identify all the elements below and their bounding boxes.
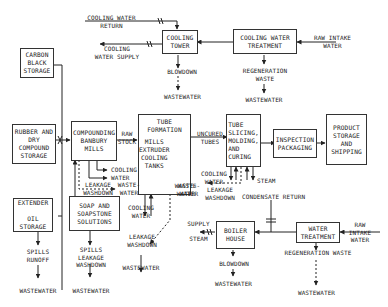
blowdown-top-label: BLOWDOWN [162,68,202,76]
water-treatment-box: WATER TREATMENT [296,222,340,243]
wastewater-top-left-label: WASTEWATER [160,93,205,101]
leakage-washdown-slicing-label: LEAKAGE WASHDOWN [202,186,238,201]
wastewater-extender-label: WASTEWATER [15,287,61,295]
spills-leakage-washdown-label: SPILLS LEAKAGE WASHDOWN [72,246,110,269]
uncured-tubes-label: UNCURED TUBES [194,130,226,145]
cooling-water-tube-formation-label: COOLING WATER [126,204,156,219]
cooling-water-return-label: COOLING WATER RETURN [84,14,139,29]
cooling-water-supply-label: COOLING WATER SUPPLY [92,45,142,60]
waste-water-slicing-label: WASTE- WATER [177,182,201,197]
cooling-tower-box: COOLING TOWER [162,30,198,54]
steam-slicing-label: STEAM [257,177,282,185]
cooling-water-slicing-label: COOLING WATER [198,170,230,185]
wastewater-soap-label: WASTEWATER [68,287,114,295]
wastewater-mid-label: WASTEWATER [118,264,164,272]
wastewater-water-treatment-label: WASTEWATER [294,289,339,297]
blowdown-boiler-label: BLOWDOWN [214,260,254,268]
leakage-washdown-mid-label: LEAKAGE WASHDOWN [124,233,160,248]
cooling-water-treatment-box: COOLING WATER TREATMENT [233,29,297,54]
rubber-dry-compound-storage-box: RUBBER AND DRY COMPOUND STORAGE [12,124,56,164]
carbon-black-storage-box: CARBON BLACK STORAGE [20,48,54,78]
inspection-packaging-box: INSPECTION PACKAGING [273,129,317,158]
raw-intake-water-top-label: RAW INTAKE WATER [305,34,360,49]
tube-formation-body: MILLS EXTRUDER COOLING TANKS [139,138,170,170]
waste-water-banbury-label: WASTE- WATER [117,181,141,196]
tube-formation-title: TUBE FORMATION [139,118,190,134]
condensate-return-label: CONDENSATE RETURN [242,193,322,201]
wastewater-boiler-label: WASTEWATER [211,280,256,288]
tube-slicing-molding-curing-box: TUBE SLICING, MOLDING, AND CURING [226,114,261,167]
boiler-house-box: BOILER HOUSE [216,221,255,249]
regeneration-waste-bottom-label: REGENERATION WASTE [283,249,353,257]
wastewater-top-right-label: WASTEWATER [241,96,287,104]
leakage-washdown-banbury-label: LEAKAGE WASHDOWN [80,181,116,196]
raw-stock-label: RAW STOCK [115,130,139,145]
soap-soapstone-solutions-box: SOAP AND SOAPSTONE SOLUTIONS [69,196,120,231]
product-storage-shipping-box: PRODUCT STORAGE AND SHIPPING [326,114,367,165]
raw-intake-water-bottom-label: RAW INTAKE WATER [345,221,375,244]
spills-runoff-label: SPILLS RUNOFF [22,248,54,263]
supply-steam-label: SUPPLY STEAM [186,220,211,243]
regeneration-waste-top-label: REGENERATION WASTE [240,67,290,82]
cooling-water-banbury-label: COOLING WATER [111,166,143,181]
extender-oil-storage-box: EXTENDER OIL STORAGE [13,198,53,232]
compounding-banbury-mills-box: COMPOUNDING BANBURY MILLS [71,121,117,161]
